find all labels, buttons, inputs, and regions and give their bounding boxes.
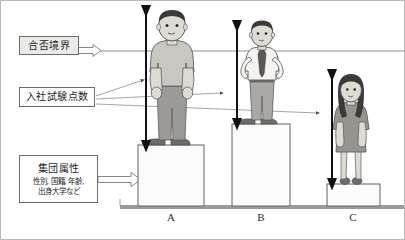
person-c — [333, 74, 369, 184]
pedestal-c — [327, 184, 380, 206]
group-attrs-callout-arrow — [98, 173, 141, 187]
label-box-group-attrs[interactable]: 集団属性 性別, 国籍, 年齢, 出身大学など — [19, 155, 98, 203]
label-group-attrs-title: 集団属性 — [38, 163, 80, 175]
person-a — [146, 10, 194, 145]
pointer-line-c — [96, 104, 318, 113]
boundary-callout-arrow — [78, 45, 101, 57]
label-boundary-text: 合否境界 — [28, 40, 70, 52]
label-box-boundary[interactable]: 合否境界 — [19, 36, 79, 55]
pedestal-a — [138, 145, 204, 206]
axis-label-a: A — [159, 211, 183, 223]
axis-label-b: B — [249, 211, 273, 223]
label-box-exam-score[interactable]: 入社試験点数 — [19, 87, 95, 107]
pointer-line-a — [96, 80, 143, 96]
label-exam-score-text: 入社試験点数 — [26, 91, 89, 103]
pedestal-b — [232, 124, 290, 206]
person-b — [239, 21, 283, 125]
axis-label-c: C — [341, 211, 365, 223]
diagram-canvas: 合否境界 入社試験点数 集団属性 性別, 国籍, 年齢, 出身大学など A B … — [0, 0, 405, 240]
label-group-attrs-line2: 出身大学など — [38, 187, 80, 197]
label-group-attrs-line1: 性別, 国籍, 年齢, — [33, 177, 84, 187]
